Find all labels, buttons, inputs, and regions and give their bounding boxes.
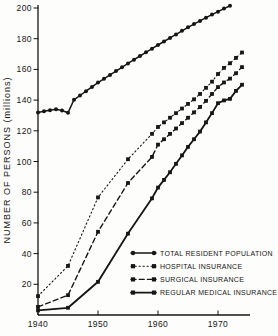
y-axis-title: NUMBER OF PERSONS (millions) (2, 76, 12, 243)
legend-item-total-resident-population: TOTAL RESIDENT POPULATION (131, 250, 273, 257)
y-tick-label: 40 (22, 249, 32, 259)
legend-item-regular-medical-insurance: REGULAR MEDICAL INSURANCE (131, 289, 277, 296)
y-tick-label: 140 (17, 95, 32, 105)
insurance-enrollment-line-chart: 2040608010012014016018020019401950196019… (0, 0, 278, 336)
legend-label: TOTAL RESIDENT POPULATION (160, 250, 273, 257)
x-tick-label: 1970 (208, 319, 229, 329)
x-tick-label: 1960 (148, 319, 169, 329)
legend-label: HOSPITAL INSURANCE (160, 263, 242, 270)
x-axis-ticks: 1940195019601970 (28, 311, 229, 330)
y-tick-label: 80 (22, 187, 32, 197)
y-tick-label: 120 (17, 126, 32, 136)
y-tick-label: 160 (17, 64, 32, 74)
legend-item-hospital-insurance: HOSPITAL INSURANCE (131, 263, 243, 270)
y-axis-ticks: 20406080100120140160180200 (17, 3, 39, 289)
legend: TOTAL RESIDENT POPULATIONHOSPITAL INSURA… (131, 250, 278, 297)
legend-label: REGULAR MEDICAL INSURANCE (160, 289, 277, 296)
x-tick-label: 1940 (28, 319, 49, 329)
legend-item-surgical-insurance: SURGICAL INSURANCE (131, 276, 244, 283)
y-tick-label: 200 (17, 3, 32, 13)
series-total-resident-population (36, 4, 232, 115)
chart-page: 2040608010012014016018020019401950196019… (0, 0, 278, 336)
series-surgical-insurance (36, 65, 244, 309)
y-tick-label: 180 (17, 34, 32, 44)
legend-label: SURGICAL INSURANCE (160, 276, 244, 283)
x-tick-label: 1950 (88, 319, 109, 329)
y-tick-label: 20 (22, 279, 32, 289)
series-hospital-insurance (36, 51, 244, 298)
y-tick-label: 100 (17, 157, 32, 167)
y-tick-label: 60 (22, 218, 32, 228)
